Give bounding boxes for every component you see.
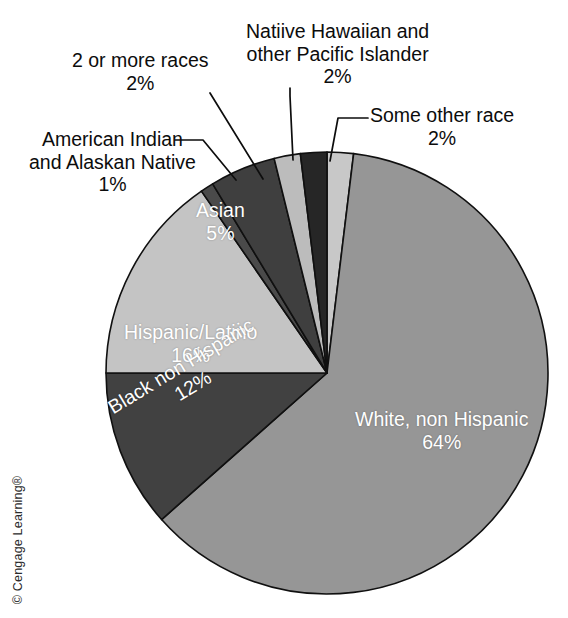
callout-american-indian: American Indian and Alaskan Native 1% <box>29 128 196 196</box>
slice-percent-white-non-hispanic: 64% <box>422 431 461 453</box>
callout-some-other-race: Some other race 2% <box>370 104 514 149</box>
callout-percent-some-other-race: 2% <box>370 127 514 150</box>
callout-label-two-or-more-races: 2 or more races <box>72 49 209 71</box>
callout-native-hawaiian: Natiive Hawaiian and other Pacific Islan… <box>246 20 429 88</box>
leader-line-two-or-more-races <box>210 93 263 179</box>
slice-label-asian: Asian 5% <box>196 199 245 244</box>
slice-label-text-asian: Asian <box>196 199 245 221</box>
pie-chart-figure: 2 or more races 2% Natiive Hawaiian and … <box>0 0 568 618</box>
slice-label-text-white-non-hispanic: White, non Hispanic <box>355 408 528 430</box>
callout-label-some-other-race: Some other race <box>370 104 514 126</box>
callout-percent-native-hawaiian: 2% <box>246 65 429 88</box>
callout-percent-two-or-more-races: 2% <box>72 72 209 95</box>
leader-line-native-hawaiian <box>290 88 293 160</box>
callout-percent-american-indian: 1% <box>29 173 196 196</box>
slice-percent-asian: 5% <box>206 222 234 244</box>
copyright-notice: © Cengage Learning® <box>11 470 25 610</box>
callout-two-or-more-races: 2 or more races 2% <box>72 49 209 94</box>
callout-label-american-indian-line1: American Indian <box>42 128 183 150</box>
callout-label-american-indian-line2: and Alaskan Native <box>29 151 196 174</box>
callout-label-native-hawaiian-line2: other Pacific Islander <box>246 43 429 66</box>
slice-label-white-non-hispanic: White, non Hispanic 64% <box>355 408 528 453</box>
callout-label-native-hawaiian-line1: Natiive Hawaiian and <box>246 20 429 42</box>
